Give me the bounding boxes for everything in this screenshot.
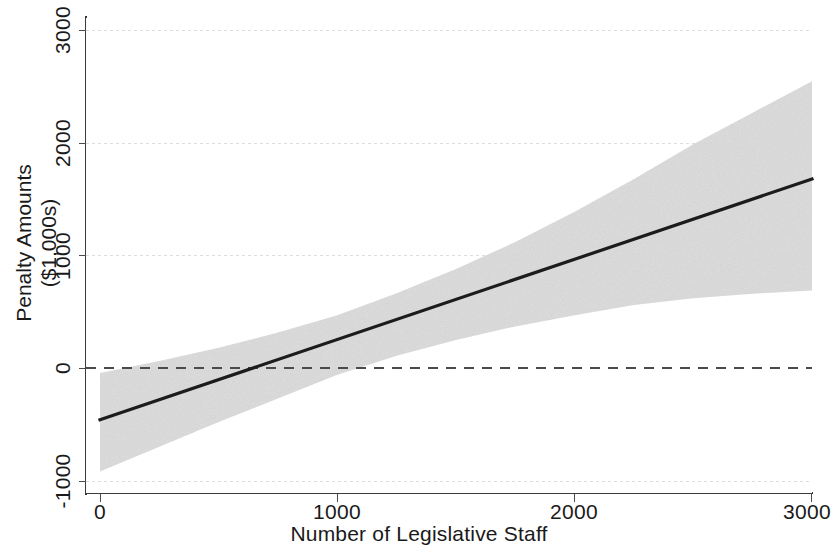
y-axis-title-line-1: Penalty Amounts xyxy=(11,93,36,393)
x-tick-label-0: 0 xyxy=(94,500,106,524)
y-tick-0 xyxy=(79,368,86,369)
confidence-band xyxy=(100,81,812,471)
y-tick-3000 xyxy=(79,30,86,31)
y-tick-label-3000: 3000 xyxy=(51,0,75,80)
y-tick-label-minus-1000: -1000 xyxy=(51,431,75,531)
y-tick-1000 xyxy=(79,255,86,256)
x-tick-label-3000: 3000 xyxy=(783,500,831,524)
y-tick-label-1000: 1000 xyxy=(51,206,75,306)
plot-area xyxy=(86,18,812,493)
x-axis-title: Number of Legislative Staff xyxy=(0,522,838,546)
y-tick-label-2000: 2000 xyxy=(51,93,75,193)
y-tick-minus-1000 xyxy=(79,481,86,482)
x-tick-label-2000: 2000 xyxy=(550,500,598,524)
y-tick-2000 xyxy=(79,143,86,144)
fit-line xyxy=(100,179,812,420)
chart-data-layer xyxy=(86,18,812,493)
chart-figure: Penalty Amounts ($1,000s) 3000 2000 1000… xyxy=(0,0,838,557)
x-tick-label-1000: 1000 xyxy=(313,500,361,524)
y-tick-label-0: 0 xyxy=(51,318,75,418)
